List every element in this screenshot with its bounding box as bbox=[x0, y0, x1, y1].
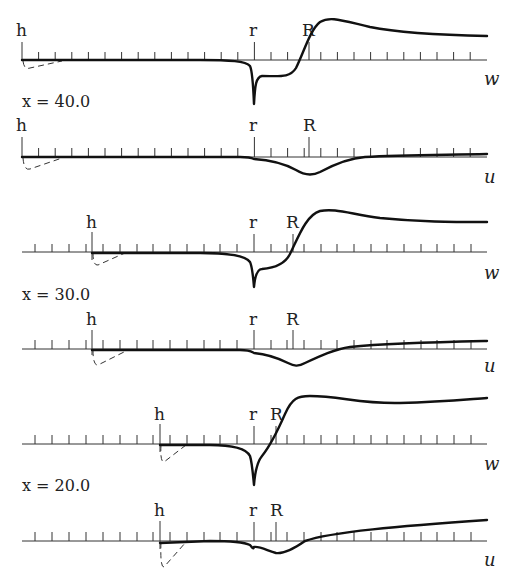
R-marker-label: R bbox=[286, 309, 300, 329]
axis-label-u: u bbox=[484, 355, 496, 376]
axis-label-u: u bbox=[484, 549, 496, 570]
r-marker-label: r bbox=[249, 20, 258, 40]
figure: h r R w x = 40.0 h r R u bbox=[0, 0, 516, 578]
h-marker-label: h bbox=[86, 212, 97, 232]
h-marker-label: h bbox=[16, 115, 27, 135]
axis-label-w: w bbox=[484, 453, 500, 474]
dashed-curve bbox=[93, 350, 128, 365]
dashed-curve bbox=[93, 253, 125, 265]
panel-x20-w: h r R w bbox=[22, 396, 500, 485]
solid-curve bbox=[160, 520, 487, 553]
panel-x30-u: h r R u bbox=[22, 309, 496, 376]
x-value-label-30: x = 30.0 bbox=[22, 285, 90, 304]
r-marker-label: r bbox=[249, 212, 258, 232]
solid-curve bbox=[92, 341, 487, 366]
x-value-label-20: x = 20.0 bbox=[22, 476, 90, 495]
h-marker-label: h bbox=[154, 500, 165, 520]
R-marker-label: R bbox=[270, 500, 284, 520]
solid-curve bbox=[160, 396, 487, 485]
x-value-label-40: x = 40.0 bbox=[22, 92, 90, 111]
panel-x40-u: h r R u bbox=[16, 115, 496, 187]
panel-x30-w: h r R w bbox=[22, 210, 500, 287]
h-marker-label: h bbox=[86, 309, 97, 329]
dashed-curve bbox=[23, 61, 62, 68]
tick-marks bbox=[35, 424, 471, 452]
R-marker-label: R bbox=[303, 115, 317, 135]
axis-label-w: w bbox=[484, 262, 500, 283]
r-marker-label: r bbox=[249, 404, 258, 424]
r-marker-label: r bbox=[249, 115, 258, 135]
h-marker-label: h bbox=[154, 404, 165, 424]
dashed-curve bbox=[161, 542, 186, 567]
axis-label-u: u bbox=[484, 166, 496, 187]
dashed-curve bbox=[161, 445, 186, 462]
R-marker-label: R bbox=[286, 212, 300, 232]
axis-label-w: w bbox=[484, 68, 500, 89]
tick-marks bbox=[35, 232, 471, 260]
h-marker-label: h bbox=[16, 20, 27, 40]
tick-marks bbox=[22, 42, 470, 60]
r-marker-label: r bbox=[249, 500, 258, 520]
panel-x20-u: h r R u bbox=[22, 500, 496, 570]
tick-marks bbox=[22, 137, 470, 157]
dashed-curve bbox=[23, 158, 62, 169]
r-marker-label: r bbox=[249, 309, 258, 329]
